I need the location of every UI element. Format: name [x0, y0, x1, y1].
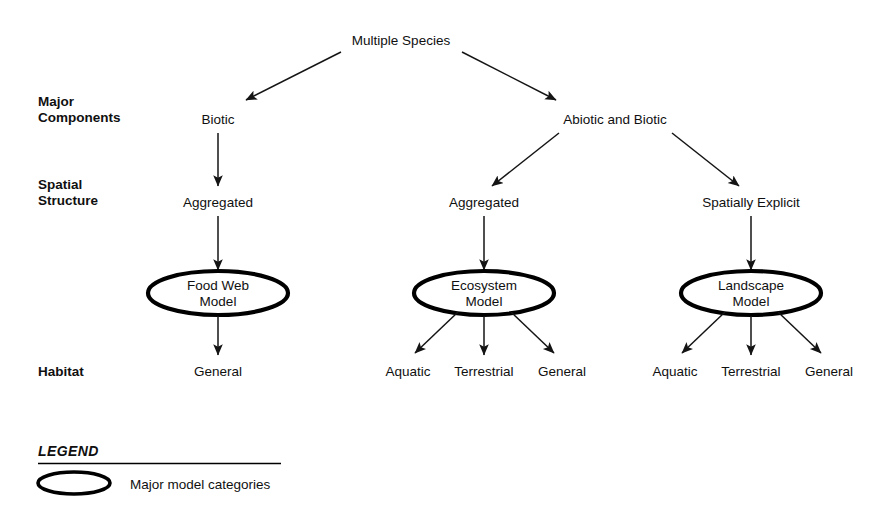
food-web-model-label-line2: Model: [200, 294, 237, 309]
node-abiotic-and-biotic: Abiotic and Biotic: [563, 112, 667, 127]
row-label-spatial-structure-line1: Spatial: [38, 177, 82, 192]
node-aggregated-middle: Aggregated: [449, 195, 519, 210]
node-ecosystem-general: General: [538, 364, 586, 379]
edge-abiotic-to-aggregated: [492, 133, 559, 186]
ecosystem-model-label-line2: Model: [466, 294, 503, 309]
edge-ecosystem-model-to-general: [511, 312, 554, 353]
node-aggregated-left: Aggregated: [183, 195, 253, 210]
model-node-landscape-model: Landscape Model: [681, 271, 821, 315]
ecosystem-model-label-line1: Ecosystem: [451, 278, 517, 293]
legend-entry-major-model-categories: Major model categories: [38, 472, 271, 494]
node-multiple-species: Multiple Species: [352, 33, 451, 48]
row-label-major-components: Major Components: [38, 94, 121, 125]
edge-landscape-model-to-aquatic: [682, 312, 725, 353]
node-ecosystem-aquatic: Aquatic: [385, 364, 430, 379]
node-landscape-aquatic: Aquatic: [652, 364, 697, 379]
landscape-model-label-line2: Model: [733, 294, 770, 309]
diagram-root: Major Components Spatial Structure Habit…: [0, 0, 886, 524]
model-hierarchy-diagram: Major Components Spatial Structure Habit…: [0, 0, 886, 524]
row-label-major-components-line1: Major: [38, 94, 75, 109]
food-web-model-label-line1: Food Web: [187, 278, 249, 293]
legend-ellipse-icon: [38, 472, 110, 494]
row-label-habitat-line1: Habitat: [38, 364, 84, 379]
model-node-food-web-model: Food Web Model: [148, 271, 288, 315]
node-landscape-general: General: [805, 364, 853, 379]
model-node-ecosystem-model: Ecosystem Model: [414, 271, 554, 315]
legend: LEGEND Major model categories: [38, 443, 281, 494]
row-label-spatial-structure: Spatial Structure: [38, 177, 99, 208]
node-biotic: Biotic: [201, 112, 234, 127]
landscape-model-label-line1: Landscape: [718, 278, 784, 293]
node-food-web-general: General: [194, 364, 242, 379]
row-label-habitat: Habitat: [38, 364, 84, 379]
node-ecosystem-terrestrial: Terrestrial: [454, 364, 513, 379]
row-label-spatial-structure-line2: Structure: [38, 193, 99, 208]
edge-multiple-species-to-biotic: [246, 52, 341, 100]
node-landscape-terrestrial: Terrestrial: [721, 364, 780, 379]
legend-entry-label: Major model categories: [130, 477, 271, 492]
node-spatially-explicit: Spatially Explicit: [702, 195, 800, 210]
edge-abiotic-to-spatially-explicit: [672, 133, 739, 186]
edge-landscape-model-to-general: [778, 312, 821, 353]
legend-title: LEGEND: [38, 443, 99, 459]
row-label-major-components-line2: Components: [38, 110, 121, 125]
edge-ecosystem-model-to-aquatic: [415, 312, 458, 353]
edge-multiple-species-to-abiotic-and-biotic: [462, 52, 556, 100]
